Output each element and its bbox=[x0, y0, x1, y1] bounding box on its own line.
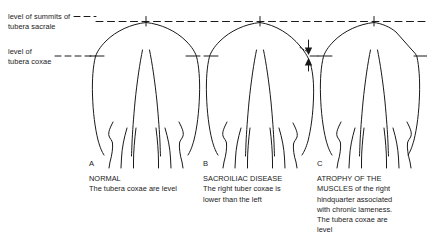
level-label-tubera-coxae: level of tubera coxae bbox=[8, 47, 51, 68]
panel-c-leg-inner-right bbox=[393, 128, 399, 168]
level-label-tubera-sacrale: level of summits of tubera sacrale bbox=[8, 12, 70, 33]
caption-c-line-4: The tubera coxae are bbox=[317, 215, 392, 225]
panel-letter-c: C bbox=[317, 159, 322, 168]
panel-b-leg2-left bbox=[248, 128, 251, 168]
panel-a-leg-inner-left bbox=[121, 128, 127, 168]
panel-c-hock-left bbox=[337, 122, 341, 168]
caption-a-line-1: The tubera coxae are level bbox=[89, 184, 177, 194]
panel-a-leg-inner-right bbox=[165, 128, 171, 168]
caption-b-heading: SACROILIAC DISEASE bbox=[203, 174, 282, 184]
panel-b-tail-right bbox=[264, 50, 275, 156]
panel-a-left-outline bbox=[92, 23, 146, 156]
caption-c-line-1: MUSCLES of the right bbox=[317, 184, 392, 194]
level-label-sacrale-line2: tubera sacrale bbox=[8, 22, 56, 31]
panel-letter-b: B bbox=[203, 159, 208, 168]
caption-a-heading: NORMAL bbox=[89, 174, 177, 184]
panel-caption-c: ATROPHY OF THE MUSCLES of the right hind… bbox=[317, 174, 392, 236]
panel-c-tail-left bbox=[360, 50, 371, 156]
figure-root: level of summits of tubera sacrale level… bbox=[0, 0, 427, 245]
caption-c-line-5: level bbox=[317, 225, 392, 235]
panel-a-right-outline bbox=[146, 23, 200, 156]
panel-b-hock-right bbox=[293, 123, 297, 168]
level-label-coxae-line1: level of bbox=[8, 47, 32, 56]
panel-c-hock-right bbox=[407, 122, 411, 168]
panel-b-leg-inner-left bbox=[235, 128, 241, 168]
panel-a-hock-left bbox=[109, 122, 113, 168]
caption-c-line-2: hindquarter associated bbox=[317, 195, 392, 205]
panel-b-figure bbox=[206, 23, 313, 169]
panel-a-tail-right bbox=[150, 50, 161, 156]
panel-c-leg2-right bbox=[384, 128, 387, 168]
caption-c-line-3: with chronic lameness. bbox=[317, 205, 392, 215]
panel-c-left-outline bbox=[320, 23, 374, 156]
panel-a-leg2-right bbox=[156, 128, 159, 168]
drop-arrow-lower-head bbox=[305, 58, 312, 66]
caption-b-line-1: The right tuber coxae is bbox=[203, 184, 282, 194]
panel-c-tail-right bbox=[378, 50, 389, 156]
panel-b-right-outline-dropped bbox=[260, 23, 314, 156]
panel-letter-a: A bbox=[89, 159, 94, 168]
panel-c-leg2-left bbox=[362, 128, 365, 168]
panel-a-leg2-left bbox=[134, 128, 137, 168]
panel-b-leg-inner-right bbox=[279, 128, 285, 168]
caption-b-line-2: lower than the left bbox=[203, 195, 282, 205]
panel-c-right-outline-flattened bbox=[374, 23, 420, 156]
panel-b-left-outline bbox=[206, 23, 260, 156]
panel-c-figure bbox=[320, 23, 419, 169]
panel-b-leg2-right bbox=[270, 128, 273, 168]
panel-c-leg-inner-left bbox=[349, 128, 355, 168]
panel-b-tail-left bbox=[246, 50, 257, 156]
level-label-coxae-line2: tubera coxae bbox=[8, 57, 51, 66]
panel-caption-b: SACROILIAC DISEASE The right tuber coxae… bbox=[203, 174, 282, 205]
caption-c-heading: ATROPHY OF THE bbox=[317, 174, 392, 184]
panel-a-hock-right bbox=[179, 122, 183, 168]
panel-a-figure bbox=[92, 23, 199, 169]
panel-b-hock-left bbox=[223, 122, 227, 168]
level-label-sacrale-line1: level of summits of bbox=[8, 12, 70, 21]
panel-a-tail-left bbox=[132, 50, 143, 156]
panel-caption-a: NORMAL The tubera coxae are level bbox=[89, 174, 177, 195]
